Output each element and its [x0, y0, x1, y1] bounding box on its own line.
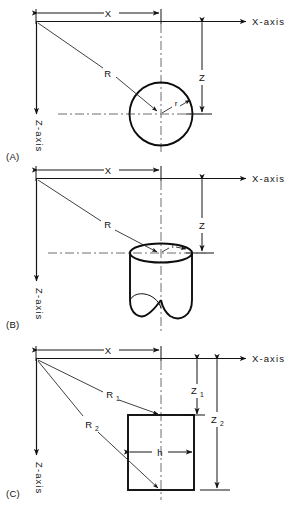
- panel-c-z1-dimension-subscript: 1: [200, 391, 204, 398]
- panel-c-z-axis-label: Z-axis: [34, 462, 45, 494]
- panel-c-z2-dimension-label: Z: [211, 414, 217, 425]
- panel-c-z1-dimension-label: Z: [191, 385, 197, 396]
- panel-c-R1-leader: R 1: [38, 360, 158, 414]
- panel-a-label: (A): [6, 151, 20, 162]
- figure-root: X X-axis Z-axis Z R: [0, 0, 303, 509]
- panel-c-label: (C): [6, 488, 20, 499]
- panel-b-x-dimension-label: X: [105, 165, 112, 176]
- panel-c-z-axis: Z-axis: [34, 359, 45, 495]
- panel-a: X X-axis Z-axis Z R: [6, 8, 285, 163]
- panel-b-z-dimension-label: Z: [199, 220, 205, 231]
- panel-c-R1-label: R: [106, 389, 113, 400]
- technical-diagram: X X-axis Z-axis Z R: [0, 0, 303, 509]
- panel-b-r-label: r: [172, 241, 175, 250]
- panel-c-h-dimension-label: h: [157, 447, 163, 458]
- panel-c-R2-subscript: 2: [95, 425, 99, 432]
- panel-c-z1-dimension: Z 1: [191, 360, 204, 414]
- panel-c-z2-dimension: Z 2: [183, 360, 230, 490]
- panel-b-z-axis-label: Z-axis: [34, 288, 45, 320]
- panel-c-h-dimension: h: [130, 447, 192, 458]
- panel-a-z-axis-label: Z-axis: [34, 120, 45, 152]
- panel-a-x-dimension-label: X: [105, 8, 112, 19]
- panel-a-r-label: r: [175, 99, 178, 108]
- panel-c-x-axis-label: X-axis: [252, 353, 285, 364]
- panel-c: X X-axis Z-axis Z 1 Z 2: [6, 345, 285, 501]
- panel-b-label: (B): [6, 319, 20, 330]
- panel-a-z-dimension-label: Z: [199, 72, 205, 83]
- panel-a-z-axis: Z-axis: [34, 22, 45, 153]
- panel-c-R2-label: R: [85, 419, 92, 430]
- panel-c-R2-leader: R 2: [38, 361, 158, 488]
- panel-c-x-dimension-label: X: [105, 345, 112, 356]
- panel-b-x-axis-label: X-axis: [252, 173, 285, 184]
- panel-c-R1-subscript: 1: [116, 395, 120, 402]
- panel-b: X X-axis Z-axis Z: [6, 165, 285, 333]
- panel-b-z-dimension: Z: [186, 180, 214, 253]
- panel-a-R-label: R: [104, 68, 111, 79]
- panel-a-r-leader: r: [162, 99, 190, 113]
- panel-b-R-leader: R: [38, 180, 157, 252]
- panel-b-z-axis: Z-axis: [34, 179, 45, 321]
- panel-b-R-label: R: [104, 219, 111, 230]
- panel-a-x-axis-label: X-axis: [252, 16, 285, 27]
- panel-c-z2-dimension-subscript: 2: [220, 420, 224, 427]
- panel-a-R-leader: R: [38, 23, 157, 111]
